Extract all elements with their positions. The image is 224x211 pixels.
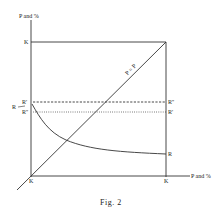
label-bottom-left-k: K bbox=[29, 178, 33, 184]
r-pointer bbox=[18, 106, 25, 107]
curve-r bbox=[32, 104, 166, 154]
x-axis-label: P and % bbox=[191, 173, 211, 179]
label-right-r: R bbox=[168, 151, 172, 157]
label-right-r-double-prime: R'' bbox=[168, 99, 174, 105]
diagram-canvas bbox=[0, 0, 224, 211]
label-left-r-prime: R' bbox=[22, 99, 27, 105]
label-left-r: R bbox=[12, 104, 16, 110]
label-left-r-double-prime: R'' bbox=[22, 109, 28, 115]
label-top-left-k: K bbox=[24, 39, 28, 45]
figure-caption: Fig. 2 bbox=[100, 198, 122, 207]
label-right-r-prime: R' bbox=[168, 109, 173, 115]
label-bottom-right-k: K bbox=[164, 178, 168, 184]
y-axis-label: P and % bbox=[19, 13, 39, 19]
